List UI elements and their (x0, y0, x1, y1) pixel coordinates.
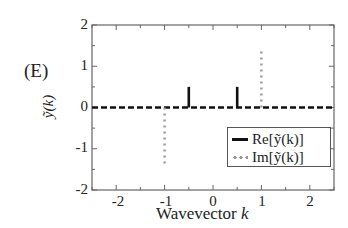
legend: Re[ỹ(k)] Im[ỹ(k)] (227, 127, 331, 167)
panel-label: (E) (24, 60, 48, 82)
y-tick-label: 2 (64, 16, 88, 33)
series-re-stems (189, 87, 237, 108)
y-tick-label: 1 (64, 57, 88, 74)
legend-label-im: Im[ỹ(k)] (252, 149, 304, 166)
y-axis-label: ỹ(k) (40, 87, 57, 127)
x-tick-label: 2 (298, 193, 322, 210)
x-tick-label: -2 (106, 193, 130, 210)
x-axis-label: Wavevector k (156, 204, 249, 224)
legend-swatch-dotted (232, 156, 248, 159)
y-tick-label: -1 (64, 139, 88, 156)
x-tick-label: 1 (250, 193, 274, 210)
y-tick-label: -2 (64, 181, 88, 198)
y-tick-label: 0 (64, 98, 88, 115)
legend-swatch-solid (232, 138, 248, 141)
x-axis-label-text: Wavevector (156, 204, 241, 223)
legend-item-im: Im[ỹ(k)] (232, 148, 304, 166)
legend-item-re: Re[ỹ(k)] (232, 130, 304, 148)
x-axis-label-var: k (241, 204, 249, 223)
legend-label-re: Re[ỹ(k)] (252, 131, 304, 148)
